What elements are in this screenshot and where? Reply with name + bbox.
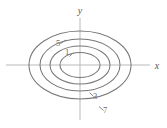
x-axis-label: x (154, 60, 160, 71)
contour-label-1: 1 (65, 47, 69, 57)
contour-label-7: 7 (103, 105, 107, 115)
contour-plot-figure: 1 3 5 7 y x (0, 0, 167, 128)
contour-label-3: 3 (93, 91, 97, 101)
y-axis-label: y (77, 5, 83, 16)
contour-plot-canvas: 1 3 5 7 y x (0, 0, 167, 128)
contour-label-5: 5 (56, 38, 60, 48)
